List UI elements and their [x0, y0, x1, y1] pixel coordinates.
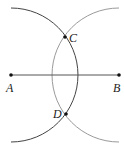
point-a [9, 73, 13, 77]
point-c [63, 35, 67, 39]
label-b: B [113, 81, 121, 95]
label-d: D [52, 107, 62, 121]
label-c: C [69, 31, 78, 45]
point-b [117, 73, 121, 77]
construction-diagram: A B C D [0, 0, 124, 153]
label-a: A [5, 81, 14, 95]
point-d [64, 112, 68, 116]
